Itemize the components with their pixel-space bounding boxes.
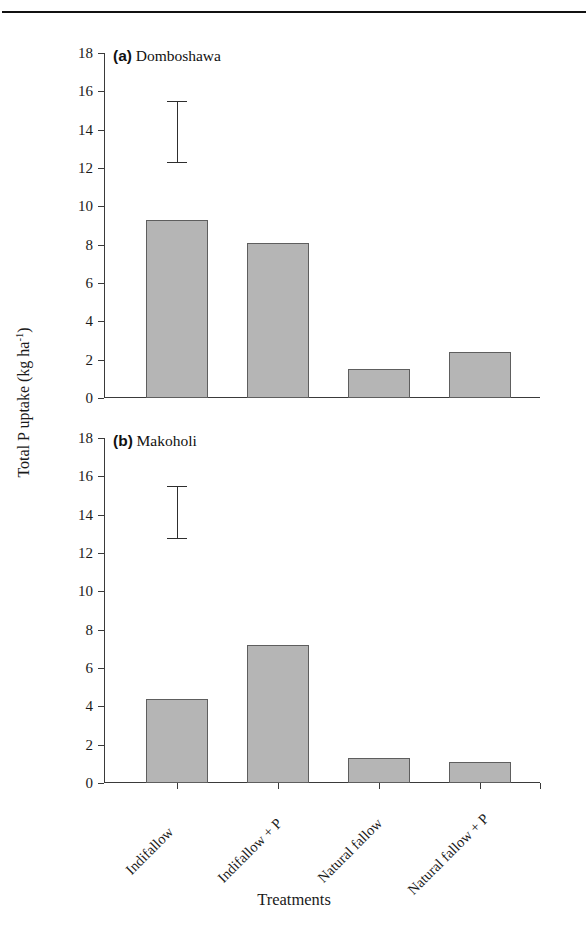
error-bar-top-cap-panel-a [167,101,187,102]
x-tick-3 [379,783,380,789]
y-axis-title-main: Total P uptake (kg ha [15,342,32,478]
x-tick-1 [177,783,178,789]
panel-b-label: (b) Makoholi [113,432,197,450]
y-tick-label-16: 16 [78,82,93,101]
y-tick-b-2: 2 [98,745,104,746]
bar-indifallow-plus-p [247,243,309,398]
y-axis-title-wrapper: Total P uptake (kg ha-1) [0,0,40,939]
x-tick-2 [278,783,279,789]
panel-b-y-axis [104,438,105,783]
error-bar-line-panel-a [177,101,178,162]
y-tick-b-18: 18 [98,438,104,439]
y-axis-title: Total P uptake (kg ha-1) [14,230,40,575]
error-bar-bottom-cap-panel-b [167,538,187,539]
x-tick-4 [480,783,481,789]
panel-a-label: (a) Domboshawa [113,47,221,65]
y-tick-label-b-16: 16 [78,467,93,486]
y-tick-18: 18 [98,53,104,54]
error-bar-top-cap-panel-b [167,486,187,487]
x-tick-label-indifallow: Indifallow [122,824,176,878]
y-tick-label-b-10: 10 [78,582,93,601]
y-tick-b-6: 6 [98,668,104,669]
x-tick-end [540,783,541,789]
y-tick-0: 0 [98,398,104,399]
panel-b-title: Makoholi [137,432,197,449]
panel-b-plot-area: 18 16 14 12 10 8 6 4 2 [104,438,540,783]
y-tick-4: 4 [98,321,104,322]
y-tick-label-b-18: 18 [78,429,93,448]
x-tick-label-natural-fallow-plus-p: Natural fallow + P [404,810,491,897]
y-tick-10: 10 [98,206,104,207]
y-tick-8: 8 [98,245,104,246]
y-tick-b-14: 14 [98,515,104,516]
figure-total-p-uptake: Total P uptake (kg ha-1) 18 16 14 12 10 [0,0,588,939]
bar-natural-fallow [348,369,410,398]
error-bar-bottom-cap-panel-a [167,162,187,163]
y-tick-label-b-12: 12 [78,544,93,563]
y-tick-label-b-2: 2 [86,736,94,755]
y-tick-2: 2 [98,360,104,361]
error-bar-line-panel-b [177,486,178,538]
y-tick-label-6: 6 [86,274,94,293]
y-tick-b-0: 0 [98,783,104,784]
y-tick-16: 16 [98,91,104,92]
bar-b-natural-fallow [348,758,410,783]
bar-b-indifallow-plus-p [247,645,309,783]
bar-natural-fallow-plus-p [449,352,511,398]
panel-a-y-axis [104,53,105,398]
y-tick-label-4: 4 [86,312,94,331]
y-tick-label-2: 2 [86,351,94,370]
y-tick-label-18: 18 [78,44,93,63]
y-tick-label-14: 14 [78,121,93,140]
y-tick-label-b-4: 4 [86,697,94,716]
bar-b-indifallow [146,699,208,783]
y-tick-b-10: 10 [98,591,104,592]
y-tick-12: 12 [98,168,104,169]
y-tick-label-8: 8 [86,236,94,255]
y-tick-label-10: 10 [78,197,93,216]
x-tick-label-natural-fallow: Natural fallow [314,815,385,886]
y-tick-b-4: 4 [98,706,104,707]
y-tick-6: 6 [98,283,104,284]
y-tick-label-b-8: 8 [86,621,94,640]
bar-b-natural-fallow-plus-p [449,762,511,783]
panel-a-tag: (a) [113,47,132,64]
y-tick-b-12: 12 [98,553,104,554]
y-tick-label-12: 12 [78,159,93,178]
x-tick-label-indifallow-plus-p: Indifallow + P [214,815,285,886]
y-tick-b-16: 16 [98,476,104,477]
bar-indifallow [146,220,208,398]
y-tick-label-b-6: 6 [86,659,94,678]
panel-a-plot-area: 18 16 14 12 10 8 6 4 2 [104,53,540,398]
panel-b-tag: (b) [113,432,133,449]
y-tick-b-8: 8 [98,630,104,631]
x-axis-title: Treatments [0,890,588,910]
y-tick-label-b-14: 14 [78,506,93,525]
y-axis-title-exponent: -1 [14,333,25,342]
y-axis-title-close: ) [15,327,32,332]
panel-a-title: Domboshawa [136,47,221,64]
y-tick-label-b-0: 0 [86,774,94,793]
y-tick-label-0: 0 [86,389,94,408]
y-tick-14: 14 [98,130,104,131]
